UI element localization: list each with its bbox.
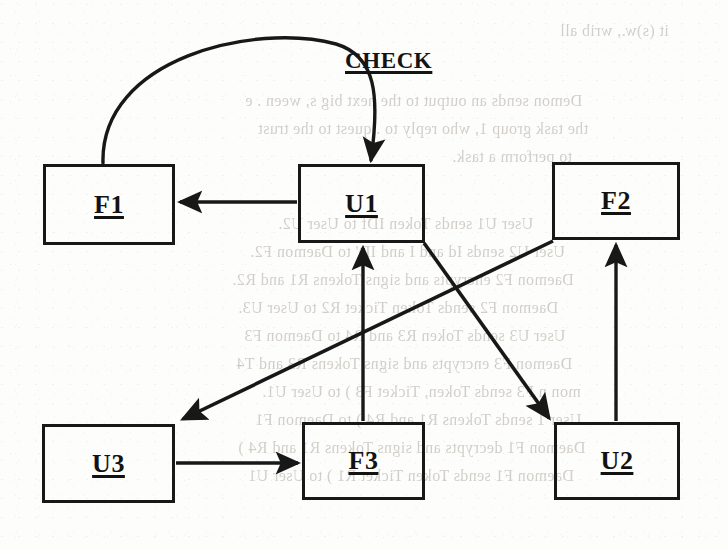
edge-f2-to-u3 (183, 241, 553, 419)
node-u3[interactable]: U3 (42, 424, 175, 503)
edge-u1-to-u2 (424, 243, 549, 418)
node-f1-label: F1 (94, 190, 124, 220)
node-u1[interactable]: U1 (298, 164, 425, 243)
scanned-page: it (s)w., wrib allDemon sends an output … (0, 0, 728, 549)
node-u2[interactable]: U2 (554, 422, 680, 500)
node-f2[interactable]: F2 (552, 162, 680, 240)
node-f3[interactable]: F3 (302, 422, 425, 500)
node-f3-label: F3 (349, 446, 379, 476)
node-f2-label: F2 (601, 186, 631, 216)
edge-label-check: CHECK (345, 48, 432, 74)
node-u1-label: U1 (345, 189, 378, 219)
node-u2-label: U2 (601, 446, 634, 476)
node-f1[interactable]: F1 (43, 164, 175, 245)
node-u3-label: U3 (92, 449, 125, 479)
edge-f1-to-u1-arc (103, 38, 375, 163)
